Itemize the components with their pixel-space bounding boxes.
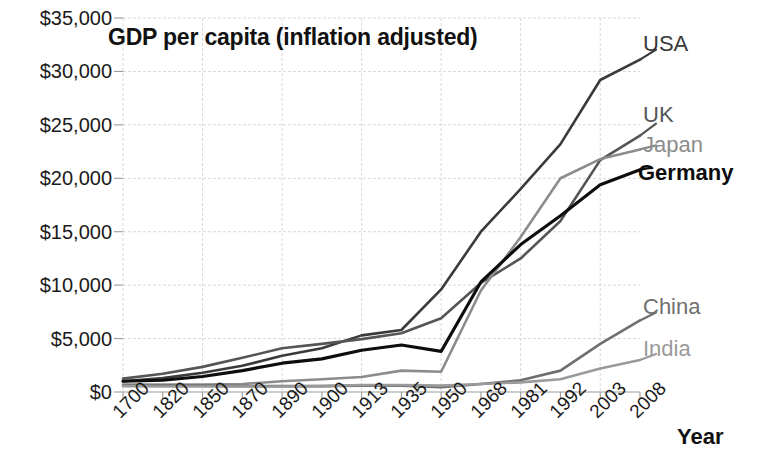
series-line-japan xyxy=(123,149,640,384)
series-label-uk: UK xyxy=(643,104,674,126)
series-line-germany xyxy=(123,170,640,382)
series-label-usa: USA xyxy=(643,33,688,55)
chart-title: GDP per capita (inflation adjusted) xyxy=(108,24,478,51)
y-axis-tick-label: $10,000 xyxy=(0,275,112,295)
y-axis-tick-label: $15,000 xyxy=(0,222,112,242)
x-axis-title: Year xyxy=(677,424,724,450)
gdp-per-capita-chart: $0$5,000$10,000$15,000$20,000$25,000$30,… xyxy=(0,0,764,463)
series-label-japan: Japan xyxy=(643,134,703,156)
y-axis-tick-label: $20,000 xyxy=(0,168,112,188)
series-label-india: India xyxy=(643,338,691,360)
y-axis-tick-label: $5,000 xyxy=(0,329,112,349)
series-line-uk xyxy=(123,136,640,379)
series-line-usa xyxy=(123,60,640,382)
y-axis-tick-label: $0 xyxy=(0,382,112,402)
series-label-china: China xyxy=(643,296,700,318)
y-axis-tick-label: $25,000 xyxy=(0,115,112,135)
series-label-germany: Germany xyxy=(638,162,733,184)
y-axis-tick-label: $30,000 xyxy=(0,61,112,81)
y-axis-tick-label: $35,000 xyxy=(0,8,112,28)
